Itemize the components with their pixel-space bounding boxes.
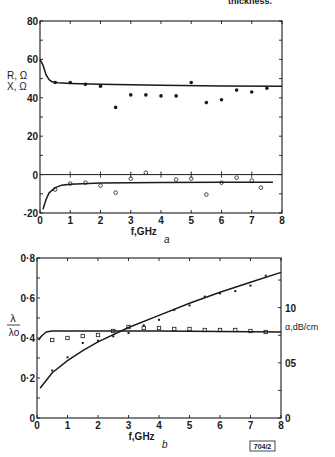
- plot-frame: [37, 258, 281, 418]
- data-point-open-circle: [205, 193, 209, 197]
- chart-panel-a: 012345678806040200-20f,GHzaR, ΩX, Ω: [7, 16, 285, 245]
- y-axis-label: X, Ω: [7, 81, 27, 92]
- data-point-filled: [250, 90, 254, 94]
- chart-panel-b: 01234567800·20·40·60·800510α,dB/cmf,GHzb…: [7, 253, 318, 450]
- data-point-cross: [234, 290, 236, 292]
- y2-tick-label: 10: [285, 303, 297, 314]
- data-point-cross: [82, 342, 84, 344]
- x-tick-label: 8: [278, 420, 284, 431]
- data-point-open-circle: [99, 184, 103, 188]
- data-point-open-square: [81, 334, 84, 337]
- x-tick-label: 5: [187, 420, 193, 431]
- x-tick-label: 4: [158, 215, 164, 226]
- x-axis-label: f,GHz: [129, 431, 155, 442]
- data-point-filled: [159, 94, 163, 98]
- data-point-open-square: [96, 333, 99, 336]
- data-point-cross: [189, 304, 191, 306]
- data-point-cross: [143, 324, 145, 326]
- y-tick-label: 0·2: [21, 373, 36, 384]
- data-point-open-square: [51, 338, 54, 341]
- y-axis-label: R, Ω: [7, 70, 28, 81]
- x-tick-label: 3: [126, 420, 132, 431]
- x-tick-label: 6: [217, 420, 223, 431]
- data-point-cross: [67, 356, 69, 358]
- y2-tick-label: 05: [285, 358, 297, 369]
- data-point-open-circle: [174, 178, 178, 182]
- y-axis-label-numerator: λ: [10, 312, 16, 324]
- y-tick-label: 0: [32, 170, 38, 181]
- theory-curve: [39, 331, 281, 340]
- theory-curve: [40, 59, 282, 86]
- data-point-cross: [128, 332, 130, 334]
- panel-label: a: [164, 234, 170, 245]
- data-point-filled: [235, 88, 239, 92]
- x-tick-label: 1: [67, 215, 73, 226]
- data-point-open-square: [188, 327, 191, 330]
- x-tick-label: 2: [95, 420, 101, 431]
- x-tick-label: 1: [65, 420, 71, 431]
- y-tick-label: -20: [24, 208, 39, 219]
- y-tick-label: 0: [29, 413, 35, 424]
- data-point-open-square: [173, 327, 176, 330]
- y2-axis-label: α,dB/cm: [285, 322, 318, 332]
- caption-fragment: thickness.: [228, 0, 272, 6]
- x-tick-label: 7: [248, 420, 254, 431]
- y-axis-label-denominator: λo: [9, 327, 20, 338]
- data-point-open-circle: [235, 176, 239, 180]
- data-point-filled: [220, 98, 224, 102]
- y-tick-label: 20: [27, 131, 39, 142]
- x-tick-label: 3: [128, 215, 134, 226]
- data-point-filled: [174, 94, 178, 98]
- data-point-filled: [129, 93, 133, 97]
- panel-label: b: [162, 439, 168, 450]
- y-tick-label: 80: [27, 16, 39, 27]
- y-tick-label: 0·6: [21, 293, 36, 304]
- data-point-open-square: [157, 326, 160, 329]
- data-point-filled: [189, 81, 193, 85]
- x-tick-label: 8: [279, 215, 285, 226]
- y-tick-label: 60: [27, 54, 39, 65]
- figure: thickness. 012345678806040200-20f,GHzaR,…: [0, 0, 335, 457]
- data-point-open-circle: [114, 191, 118, 195]
- y-tick-label: 0·8: [21, 253, 36, 264]
- x-tick-label: 7: [249, 215, 255, 226]
- x-tick-label: 5: [188, 215, 194, 226]
- theory-curve: [43, 182, 273, 209]
- x-tick-label: 0: [34, 420, 40, 431]
- x-tick-label: 4: [156, 420, 162, 431]
- y2-tick-label: 0: [285, 413, 291, 424]
- data-point-filled: [205, 101, 209, 105]
- data-point-cross: [250, 285, 252, 287]
- y-tick-label: 0·4: [21, 333, 36, 344]
- data-point-filled: [144, 93, 148, 97]
- data-point-open-square: [142, 326, 145, 329]
- data-point-cross: [158, 319, 160, 321]
- y-tick-label: 40: [27, 93, 39, 104]
- x-tick-label: 2: [98, 215, 104, 226]
- data-point-open-circle: [144, 171, 148, 175]
- data-point-open-circle: [259, 186, 263, 190]
- data-point-open-square: [66, 336, 69, 339]
- x-tick-label: 0: [37, 215, 43, 226]
- data-point-filled: [114, 106, 118, 110]
- figure-id-box: 704/2: [250, 441, 275, 451]
- x-axis-label: f,GHz: [131, 226, 157, 237]
- figure-id: 704/2: [254, 443, 272, 450]
- x-tick-label: 6: [219, 215, 225, 226]
